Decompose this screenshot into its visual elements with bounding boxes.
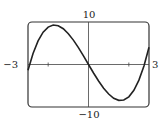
y-max-label: 10 <box>83 9 96 20</box>
x-max-label: 3 <box>152 59 158 70</box>
y-min-label: −10 <box>78 109 99 120</box>
x-min-label: −3 <box>3 59 18 70</box>
function-graph: −3 3 10 −10 <box>0 0 161 124</box>
